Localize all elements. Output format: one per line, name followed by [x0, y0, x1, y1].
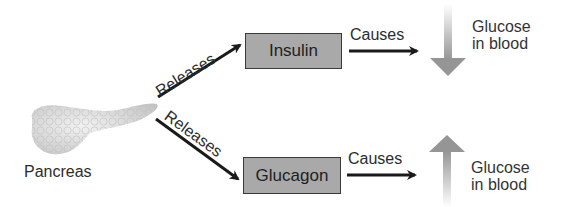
insulin-label: Insulin: [269, 41, 318, 61]
glucagon-box: Glucagon: [243, 157, 341, 194]
glucagon-label: Glucagon: [256, 166, 329, 186]
glucose-label-bottom: Glucose in blood: [471, 159, 530, 193]
glucose-increase-arrow-icon: [429, 135, 465, 207]
pancreas-illustration: [32, 103, 158, 154]
causes-label-glucagon: Causes: [348, 151, 402, 167]
pancreas-label: Pancreas: [24, 164, 92, 180]
insulin-box: Insulin: [245, 33, 342, 69]
causes-label-insulin: Causes: [350, 27, 404, 43]
glucose-decrease-arrow-icon: [430, 4, 466, 76]
glucose-regulation-diagram: Releases Releases Insulin Glucagon Cause…: [0, 0, 570, 207]
glucose-label-top: Glucose in blood: [472, 18, 531, 52]
